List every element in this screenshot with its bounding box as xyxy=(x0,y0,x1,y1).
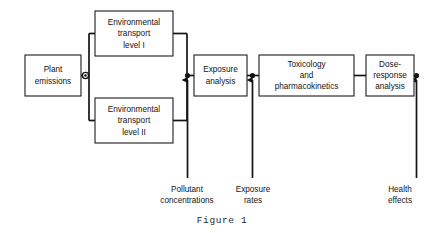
dose-response-label-line-3: analysis xyxy=(375,82,405,91)
process-flow-diagram: Plant emissions Environmental transport … xyxy=(0,0,438,233)
exposure-rates-label-line-2: rates xyxy=(244,196,262,205)
annotation-pollutant-concentrations: Pollutant concentrations xyxy=(160,185,213,205)
exposure-junction-dot xyxy=(250,73,255,78)
node-toxicology-and-pharmacokinetics[interactable]: Toxicology and pharmacokinetics xyxy=(259,55,354,96)
dose-response-label-line-2: response xyxy=(373,71,407,80)
environmental-transport-level-ii-label-line-2: transport xyxy=(118,116,151,125)
plant-emissions-label-line-2: emissions xyxy=(35,77,71,86)
exposure-rates-label-line-1: Exposure xyxy=(236,185,271,194)
node-environmental-transport-level-i[interactable]: Environmental transport level I xyxy=(95,11,173,56)
node-exposure-analysis[interactable]: Exposure analysis xyxy=(194,55,247,96)
plant-emissions-label-line-1: Plant xyxy=(44,65,63,74)
figure-container: Plant emissions Environmental transport … xyxy=(0,0,438,233)
exposure-analysis-label-line-1: Exposure xyxy=(203,65,238,74)
toxicology-label-line-1: Toxicology xyxy=(287,60,326,69)
exposure-analysis-box[interactable] xyxy=(194,55,247,96)
annotation-health-effects: Health effects xyxy=(388,185,412,205)
source-junction-core xyxy=(84,74,87,77)
pollutant-concentrations-label-line-1: Pollutant xyxy=(171,185,204,194)
environmental-transport-level-i-label-line-1: Environmental xyxy=(108,18,161,27)
node-plant-emissions[interactable]: Plant emissions xyxy=(25,55,81,96)
figure-caption: Figure 1 xyxy=(197,215,247,226)
health-effects-label-line-2: effects xyxy=(388,196,412,205)
environmental-transport-level-i-label-line-3: level I xyxy=(123,41,144,50)
toxicology-label-line-2: and xyxy=(300,71,314,80)
node-environmental-transport-level-ii[interactable]: Environmental transport level II xyxy=(95,98,173,143)
dose-response-label-line-1: Dose- xyxy=(379,60,401,69)
health-effects-label-line-1: Health xyxy=(388,185,412,194)
pollutant-concentrations-label-line-2: concentrations xyxy=(160,196,213,205)
pollutant-junction-dot xyxy=(185,73,190,78)
health-junction-dot xyxy=(414,73,419,78)
annotation-exposure-rates: Exposure rates xyxy=(236,185,271,205)
environmental-transport-level-ii-label-line-3: level II xyxy=(122,128,146,137)
plant-emissions-box[interactable] xyxy=(25,55,81,96)
environmental-transport-level-i-label-line-2: transport xyxy=(118,29,151,38)
toxicology-label-line-3: pharmacokinetics xyxy=(275,82,339,91)
environmental-transport-level-ii-label-line-1: Environmental xyxy=(108,105,161,114)
exposure-analysis-label-line-2: analysis xyxy=(206,77,236,86)
node-dose-response-analysis[interactable]: Dose- response analysis xyxy=(366,55,414,96)
